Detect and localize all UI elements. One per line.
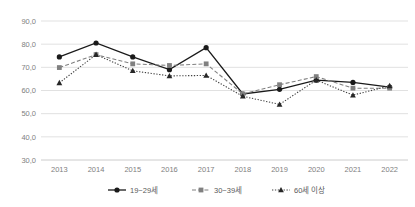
y-axis-tick-label: 70,0: [21, 63, 36, 72]
y-axis-tick-label: 30,0: [21, 156, 36, 165]
x-axis-tick-label: 2015: [124, 165, 141, 174]
gridlines: 30,040,050,060,070,080,090,0: [21, 17, 408, 165]
circle-marker-icon: [130, 54, 135, 59]
legend-label: 60세 이상: [294, 185, 325, 195]
x-axis-tick-label: 2021: [345, 165, 362, 174]
y-axis-tick-label: 50,0: [21, 109, 36, 118]
y-axis-tick-label: 60,0: [21, 86, 36, 95]
x-axis-tick-label: 2022: [381, 165, 398, 174]
legend-label: 30~39세: [214, 186, 242, 195]
square-marker-icon: [199, 188, 204, 193]
square-marker-icon: [204, 61, 209, 66]
legend-label: 19~29세: [130, 186, 158, 195]
x-axis-tick-label: 2020: [308, 165, 325, 174]
triangle-marker-icon: [203, 72, 209, 77]
chart-canvas: 30,040,050,060,070,080,090,0201320142015…: [0, 0, 415, 207]
x-axis-tick-label: 2014: [88, 165, 105, 174]
circle-marker-icon: [277, 87, 282, 92]
legend-item-1[interactable]: 19~29세: [108, 186, 158, 195]
square-marker-icon: [351, 86, 356, 91]
legend-item-3[interactable]: 60세 이상: [272, 185, 325, 195]
circle-marker-icon: [114, 187, 119, 192]
circle-marker-icon: [93, 40, 98, 45]
circle-marker-icon: [204, 45, 209, 50]
y-axis-tick-label: 40,0: [21, 133, 36, 142]
circle-marker-icon: [57, 54, 62, 59]
series-1: [57, 40, 393, 96]
legend-item-2[interactable]: 30~39세: [192, 186, 242, 195]
circle-marker-icon: [350, 80, 355, 85]
x-axis-tick-label: 2019: [271, 165, 288, 174]
x-axis-tick-label: 2017: [198, 165, 215, 174]
y-axis-tick-label: 90,0: [21, 17, 36, 26]
square-marker-icon: [57, 65, 62, 70]
square-marker-icon: [130, 61, 135, 66]
x-axis: 2013201420152016201720182019202020212022: [51, 165, 398, 174]
x-axis-tick-label: 2016: [161, 165, 178, 174]
series-line: [59, 55, 389, 94]
series-line: [59, 43, 389, 94]
x-axis-tick-label: 2013: [51, 165, 68, 174]
square-marker-icon: [167, 63, 172, 68]
series-2: [57, 52, 392, 96]
x-axis-tick-label: 2018: [235, 165, 252, 174]
legend: 19~29세30~39세60세 이상: [108, 185, 325, 195]
line-chart: 30,040,050,060,070,080,090,0201320142015…: [0, 0, 415, 207]
y-axis-tick-label: 80,0: [21, 40, 36, 49]
square-marker-icon: [277, 82, 282, 87]
